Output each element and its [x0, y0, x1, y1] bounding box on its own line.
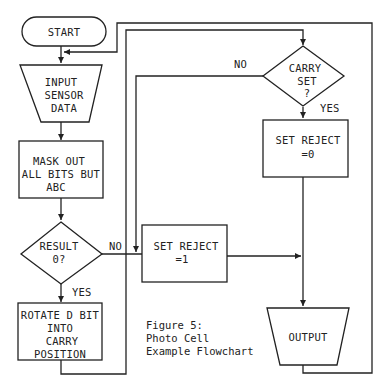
result-no-label: NO	[109, 240, 122, 252]
node-rotate-line-1: ROTATE D BIT	[21, 309, 100, 321]
node-output: OUTPUT	[267, 308, 349, 365]
node-input-line-1: INPUT	[45, 76, 78, 88]
node-mask-line-3: ABC	[46, 181, 66, 193]
node-result-line-2: 0?	[52, 253, 65, 265]
node-reject1-line-2: =1	[175, 253, 188, 265]
figure-caption: Figure 5: Photo Cell Example Flowchart	[146, 319, 253, 357]
flowchart: START INPUT SENSOR DATA MASK OUT ALL BIT…	[0, 0, 385, 390]
node-rotate-line-3: CARRY	[46, 335, 79, 347]
node-rotate-line-2: INTO	[47, 322, 73, 334]
node-carry-line-1: CARRY	[289, 62, 322, 74]
node-reject1: SET REJECT =1	[142, 225, 227, 282]
node-input-line-2: SENSOR	[44, 89, 84, 101]
carry-yes-label: YES	[320, 102, 340, 114]
node-reject1-line-1: SET REJECT	[153, 240, 219, 252]
node-mask-line-1: MASK OUT	[33, 155, 86, 167]
caption-line-2: Photo Cell	[146, 332, 209, 344]
node-reject0: SET REJECT =0	[263, 120, 348, 177]
node-rotate-line-4: POSITION	[34, 348, 86, 360]
node-start: START	[22, 17, 106, 46]
node-input: INPUT SENSOR DATA	[20, 65, 102, 122]
node-start-label: START	[48, 26, 81, 38]
node-mask: MASK OUT ALL BITS BUT ABC	[19, 141, 103, 198]
node-reject0-line-1: SET REJECT	[275, 134, 341, 146]
node-reject0-line-2: =0	[301, 148, 314, 160]
node-carry-line-3: ?	[304, 87, 311, 99]
node-carry-line-2: SET	[297, 75, 317, 87]
node-carry: CARRY SET ?	[263, 46, 344, 106]
caption-line-1: Figure 5:	[146, 319, 203, 331]
carry-no-label: NO	[234, 58, 247, 70]
caption-line-3: Example Flowchart	[146, 345, 253, 357]
result-yes-label: YES	[72, 286, 92, 298]
node-output-label: OUTPUT	[288, 331, 328, 343]
node-result: RESULT 0?	[21, 222, 102, 284]
node-rotate: ROTATE D BIT INTO CARRY POSITION	[18, 303, 102, 360]
node-input-line-3: DATA	[51, 102, 78, 114]
flowchart-canvas: START INPUT SENSOR DATA MASK OUT ALL BIT…	[0, 0, 385, 390]
node-result-line-1: RESULT	[39, 240, 79, 252]
node-mask-line-2: ALL BITS BUT	[22, 168, 101, 180]
